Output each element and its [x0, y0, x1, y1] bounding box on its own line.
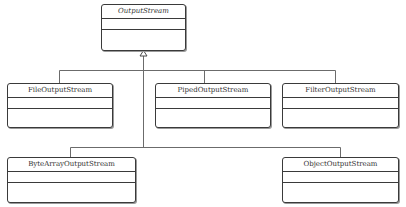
- class-name: ByteArrayOutputStream: [8, 158, 135, 172]
- operations-compartment: [283, 183, 398, 202]
- class-box-piped-output-stream[interactable]: PipedOutputStream: [155, 83, 271, 128]
- uml-class-diagram: OutputStream FileOutputStream PipedOutpu…: [0, 0, 406, 207]
- attributes-compartment: [283, 98, 398, 109]
- attributes-compartment: [8, 98, 112, 109]
- class-name: FileOutputStream: [8, 84, 112, 98]
- operations-compartment: [283, 109, 398, 127]
- attributes-compartment: [102, 19, 185, 30]
- attributes-compartment: [283, 172, 398, 183]
- class-name: FilterOutputStream: [283, 84, 398, 98]
- class-box-byte-array-output-stream[interactable]: ByteArrayOutputStream: [7, 157, 136, 203]
- operations-compartment: [156, 109, 270, 127]
- class-box-output-stream[interactable]: OutputStream: [101, 4, 186, 51]
- operations-compartment: [8, 109, 112, 127]
- class-name: PipedOutputStream: [156, 84, 270, 98]
- operations-compartment: [102, 30, 185, 50]
- attributes-compartment: [156, 98, 270, 109]
- class-box-filter-output-stream[interactable]: FilterOutputStream: [282, 83, 399, 128]
- attributes-compartment: [8, 172, 135, 183]
- operations-compartment: [8, 183, 135, 202]
- class-box-file-output-stream[interactable]: FileOutputStream: [7, 83, 113, 128]
- class-box-object-output-stream[interactable]: ObjectOutputStream: [282, 157, 399, 203]
- class-name: OutputStream: [102, 5, 185, 19]
- class-name: ObjectOutputStream: [283, 158, 398, 172]
- generalization-arrow-icon: [140, 51, 147, 57]
